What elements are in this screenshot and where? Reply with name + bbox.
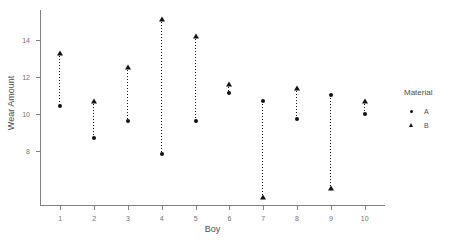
x-tick-mark: 2 bbox=[94, 206, 95, 210]
connector-line bbox=[330, 95, 331, 187]
data-point-b bbox=[328, 185, 334, 190]
data-point-b bbox=[91, 98, 97, 103]
data-point-a bbox=[92, 136, 96, 140]
legend-entries: AB bbox=[404, 104, 432, 132]
connector-line bbox=[296, 88, 297, 119]
data-point-b bbox=[193, 33, 199, 38]
circle-glyph bbox=[410, 110, 413, 113]
triangle-marker-icon bbox=[404, 123, 418, 127]
connector-line bbox=[59, 53, 60, 107]
x-tick-label: 1 bbox=[58, 215, 62, 222]
x-tick-mark: 4 bbox=[162, 206, 163, 210]
y-tick-mark: 10 bbox=[36, 114, 40, 115]
data-point-a bbox=[160, 152, 164, 156]
data-point-b bbox=[294, 85, 300, 90]
data-point-b bbox=[362, 98, 368, 103]
y-tick-label: 8 bbox=[26, 147, 30, 154]
x-tick-label: 3 bbox=[126, 215, 130, 222]
data-point-a bbox=[194, 119, 198, 123]
y-tick-mark: 8 bbox=[36, 151, 40, 152]
x-tick-label: 7 bbox=[261, 215, 265, 222]
data-point-a bbox=[227, 91, 231, 95]
x-tick-mark: 5 bbox=[196, 206, 197, 210]
x-tick-mark: 7 bbox=[263, 206, 264, 210]
connector-line bbox=[195, 36, 196, 121]
legend-item-a[interactable]: A bbox=[404, 104, 432, 118]
x-axis-line bbox=[40, 205, 385, 206]
x-tick-label: 4 bbox=[160, 215, 164, 222]
y-axis-line bbox=[40, 10, 41, 206]
legend-label: B bbox=[424, 122, 429, 129]
data-point-b bbox=[260, 194, 266, 199]
data-point-b bbox=[226, 81, 232, 86]
x-tick-label: 5 bbox=[194, 215, 198, 222]
x-tick-mark: 6 bbox=[229, 206, 230, 210]
legend-item-b[interactable]: B bbox=[404, 118, 432, 132]
x-axis-title: Boy bbox=[40, 224, 385, 234]
legend-label: A bbox=[424, 108, 429, 115]
x-tick-mark: 8 bbox=[297, 206, 298, 210]
y-tick-mark: 12 bbox=[36, 77, 40, 78]
x-tick-mark: 9 bbox=[331, 206, 332, 210]
y-tick-label: 10 bbox=[22, 110, 30, 117]
x-tick-mark: 1 bbox=[60, 206, 61, 210]
y-axis-title: Wear Amount bbox=[6, 53, 16, 153]
data-point-a bbox=[295, 117, 299, 121]
wear-amount-scatter-chart: 8101214 12345678910 Wear Amount Boy Mate… bbox=[0, 0, 460, 246]
y-tick-mark: 14 bbox=[36, 40, 40, 41]
y-tick-label: 12 bbox=[22, 73, 30, 80]
data-point-a bbox=[58, 104, 62, 108]
triangle-glyph bbox=[409, 123, 413, 127]
x-tick-label: 10 bbox=[361, 215, 369, 222]
legend: Material AB bbox=[404, 88, 432, 132]
connector-line bbox=[161, 19, 162, 154]
data-point-a bbox=[329, 93, 333, 97]
x-tick-mark: 10 bbox=[365, 206, 366, 210]
circle-marker-icon bbox=[404, 110, 418, 113]
y-tick-label: 14 bbox=[22, 36, 30, 43]
connector-line bbox=[127, 67, 128, 121]
data-point-a bbox=[261, 99, 265, 103]
connector-line bbox=[93, 101, 94, 138]
data-point-a bbox=[126, 119, 130, 123]
x-tick-label: 8 bbox=[295, 215, 299, 222]
data-point-b bbox=[159, 17, 165, 22]
connector-line bbox=[262, 101, 263, 197]
data-point-b bbox=[125, 65, 131, 70]
x-tick-label: 9 bbox=[329, 215, 333, 222]
x-tick-label: 2 bbox=[92, 215, 96, 222]
data-point-a bbox=[363, 112, 367, 116]
plot-area: 8101214 12345678910 bbox=[40, 10, 385, 206]
legend-title: Material bbox=[404, 88, 432, 97]
x-tick-label: 6 bbox=[227, 215, 231, 222]
x-tick-mark: 3 bbox=[128, 206, 129, 210]
data-point-b bbox=[57, 50, 63, 55]
